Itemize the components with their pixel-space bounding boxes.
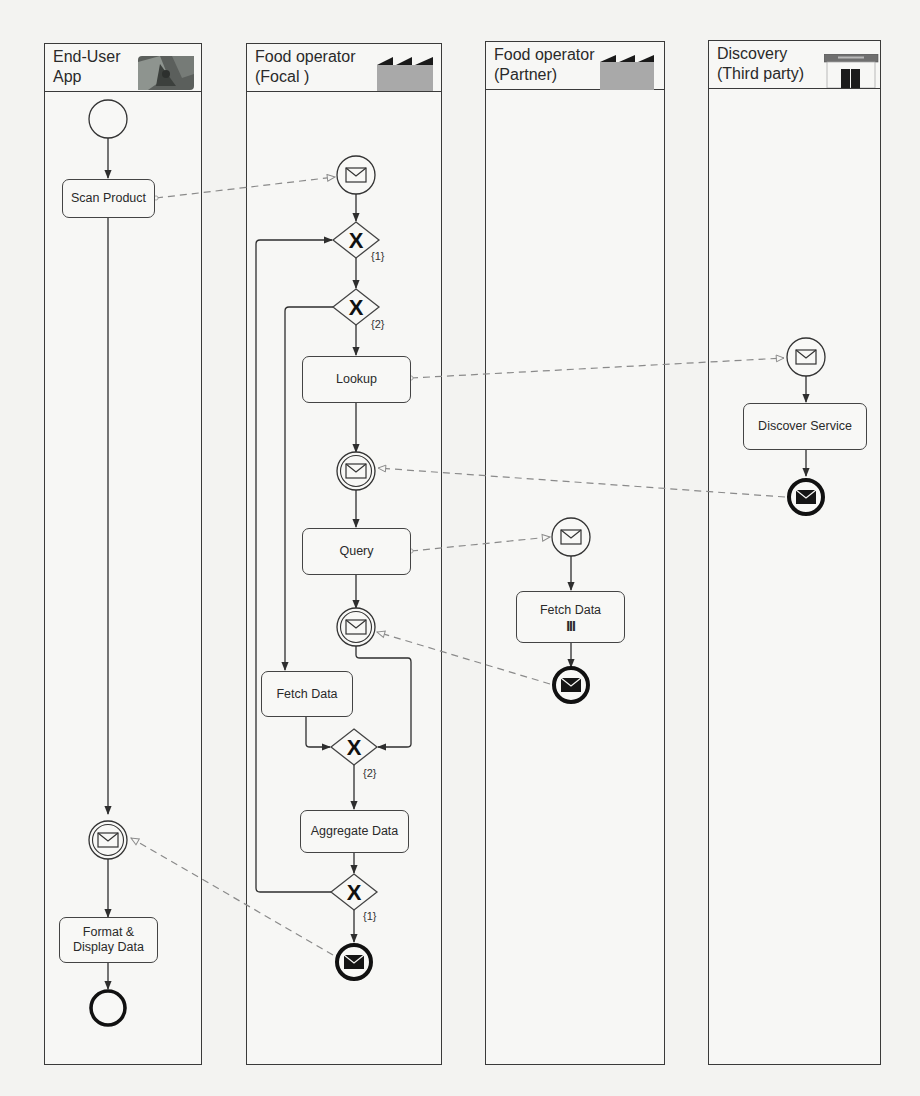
message-start-event[interactable] — [552, 518, 590, 556]
message-end-event[interactable] — [789, 480, 823, 514]
message-start-event[interactable] — [337, 156, 375, 194]
envelope-filled-icon — [344, 955, 364, 969]
sequence-flow — [356, 646, 411, 747]
message-flow — [378, 468, 785, 497]
envelope-filled-icon — [796, 490, 816, 504]
message-end-event[interactable] — [554, 668, 588, 702]
task-fetch-data-partner[interactable]: Fetch Data III — [516, 591, 625, 643]
message-flow — [411, 358, 784, 378]
task-query[interactable]: Query — [302, 528, 411, 575]
task-scan-product[interactable]: Scan Product — [62, 179, 155, 218]
gateway-x-marker: X — [349, 228, 364, 253]
message-flow — [131, 838, 333, 955]
gateway-x-marker: X — [347, 735, 362, 760]
parallel-multi-instance-marker-icon: III — [566, 620, 575, 632]
task-format-display-data[interactable]: Format & Display Data — [59, 917, 158, 963]
gateway-x-marker: X — [347, 880, 362, 905]
exclusive-gateway-join-2[interactable]: X — [331, 729, 377, 765]
message-catch-event[interactable] — [337, 608, 375, 646]
message-flow — [156, 177, 335, 198]
envelope-filled-icon — [561, 678, 581, 692]
bpmn-diagram: End-User App Food operator (Focal ) Food… — [0, 0, 920, 1096]
exclusive-gateway-join-1[interactable]: X — [331, 874, 377, 910]
gateway-label: {2} — [363, 767, 376, 779]
task-aggregate-data[interactable]: Aggregate Data — [300, 810, 409, 853]
gateway-label: {1} — [371, 250, 384, 262]
gateway-label: {2} — [371, 318, 384, 330]
sequence-flow — [306, 716, 330, 747]
message-flow — [411, 537, 550, 551]
task-discover-service[interactable]: Discover Service — [743, 403, 867, 450]
message-catch-event[interactable] — [337, 452, 375, 490]
message-catch-event[interactable] — [89, 821, 127, 859]
message-end-event[interactable] — [337, 945, 371, 979]
task-fetch-data-focal[interactable]: Fetch Data — [261, 671, 353, 717]
task-label: Fetch Data — [540, 603, 601, 618]
start-event[interactable] — [89, 100, 127, 138]
message-start-event[interactable] — [787, 338, 825, 376]
gateway-label: {1} — [363, 910, 376, 922]
gateway-x-marker: X — [349, 295, 364, 320]
end-event[interactable] — [91, 991, 125, 1025]
task-lookup[interactable]: Lookup — [302, 356, 411, 403]
